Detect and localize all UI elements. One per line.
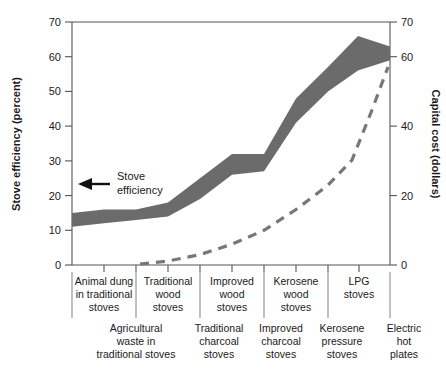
svg-text:Electric: Electric	[387, 322, 421, 334]
x-category-labels-upper: Animal dung in traditional stoves Tradit…	[75, 275, 374, 313]
svg-text:stoves: stoves	[204, 348, 234, 360]
svg-text:Animal dung: Animal dung	[75, 275, 134, 287]
svg-text:waste in: waste in	[116, 335, 156, 347]
left-arrow-icon	[78, 178, 92, 190]
x-category-lower-3: Kerosene pressure stoves	[320, 322, 365, 360]
x-category-upper-3: Kerosene wood stoves	[274, 275, 319, 313]
right-tick-60: 60	[401, 51, 413, 63]
x-category-upper-0: Animal dung in traditional stoves	[75, 275, 134, 313]
svg-text:stoves: stoves	[217, 301, 247, 313]
svg-text:Improved: Improved	[259, 322, 303, 334]
svg-text:wood: wood	[218, 288, 244, 300]
svg-text:Traditional: Traditional	[195, 322, 244, 334]
svg-text:Agricultural: Agricultural	[110, 322, 163, 334]
svg-text:Improved: Improved	[210, 275, 254, 287]
svg-text:plates: plates	[390, 348, 418, 360]
x-axis-ticks	[104, 265, 359, 272]
x-category-upper-1: Traditional wood stoves	[144, 275, 193, 313]
x-category-labels-lower: Agricultural waste in traditional stoves…	[97, 322, 422, 360]
left-axis-title: Stove efficiency (percent)	[10, 77, 22, 211]
left-tick-50: 50	[49, 85, 61, 97]
right-axis-title: Capital cost (dollars)	[430, 90, 442, 199]
svg-text:charcoal: charcoal	[199, 335, 239, 347]
svg-text:stoves: stoves	[281, 301, 311, 313]
right-tick-0: 0	[401, 259, 407, 271]
x-category-upper-4: LPG stoves	[344, 275, 374, 300]
left-tick-10: 10	[49, 224, 61, 236]
svg-text:hot: hot	[397, 335, 412, 347]
left-axis-ticks: 0 10 20 30 40 50 60 70	[49, 16, 72, 271]
svg-text:Kerosene: Kerosene	[274, 275, 319, 287]
left-tick-0: 0	[55, 259, 61, 271]
svg-text:stoves: stoves	[89, 301, 119, 313]
annotation-line2: efficiency	[117, 184, 163, 196]
stove-efficiency-band	[72, 36, 390, 227]
left-tick-20: 20	[49, 190, 61, 202]
annotation-line1: Stove	[117, 170, 145, 182]
figure-container: 0 10 20 30 40 50 60 70 0 20 40 60 70 Sto…	[0, 0, 446, 384]
svg-text:LPG: LPG	[348, 275, 369, 287]
svg-text:stoves: stoves	[344, 288, 374, 300]
x-category-lower-1: Traditional charcoal stoves	[195, 322, 244, 360]
svg-text:stoves: stoves	[327, 348, 357, 360]
left-tick-70: 70	[49, 16, 61, 28]
x-category-upper-2: Improved wood stoves	[210, 275, 254, 313]
left-tick-60: 60	[49, 51, 61, 63]
svg-text:pressure: pressure	[322, 335, 363, 347]
x-category-lower-2: Improved charcoal stoves	[259, 322, 303, 360]
svg-text:traditional stoves: traditional stoves	[97, 348, 176, 360]
chart-svg: 0 10 20 30 40 50 60 70 0 20 40 60 70 Sto…	[0, 0, 446, 384]
stove-efficiency-annotation: Stove efficiency	[78, 170, 163, 196]
svg-text:Traditional: Traditional	[144, 275, 193, 287]
left-tick-40: 40	[49, 120, 61, 132]
x-category-lower-4: Electric hot plates	[387, 322, 421, 360]
right-tick-40: 40	[401, 120, 413, 132]
svg-text:wood: wood	[282, 288, 308, 300]
right-tick-70: 70	[401, 16, 413, 28]
svg-text:Kerosene: Kerosene	[320, 322, 365, 334]
svg-text:charcoal: charcoal	[261, 335, 301, 347]
x-category-lower-0: Agricultural waste in traditional stoves	[97, 322, 176, 360]
right-axis-ticks: 0 20 40 60 70	[390, 16, 413, 271]
svg-text:wood: wood	[154, 288, 180, 300]
left-tick-30: 30	[49, 155, 61, 167]
right-tick-20: 20	[401, 190, 413, 202]
svg-text:stoves: stoves	[153, 301, 183, 313]
svg-text:stoves: stoves	[266, 348, 296, 360]
svg-text:in traditional: in traditional	[76, 288, 133, 300]
